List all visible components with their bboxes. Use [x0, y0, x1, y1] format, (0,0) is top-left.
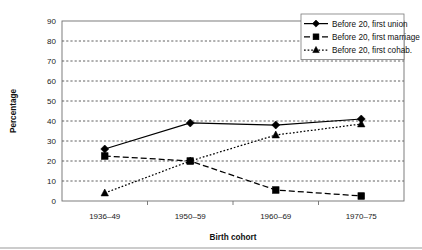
x-tick-label: 1960–69	[260, 212, 292, 221]
y-tick-label: 60	[47, 77, 56, 86]
y-tick-label: 50	[47, 97, 56, 106]
y-tick-label: 40	[47, 117, 56, 126]
x-tick-label: 1936–49	[89, 212, 121, 221]
y-tick-label: 90	[47, 17, 56, 26]
x-axis-title: Birth cohort	[210, 233, 257, 242]
legend-label[interactable]: Before 20, first marriage	[332, 33, 420, 42]
y-tick-label: 70	[47, 57, 56, 66]
marker-square	[272, 187, 279, 194]
x-tick-label: 1950–59	[175, 212, 207, 221]
y-axis-title: Percentage	[9, 88, 18, 133]
legend-label[interactable]: Before 20, first union	[332, 20, 408, 29]
marker-square	[101, 153, 108, 160]
legend-label[interactable]: Before 20, first cohab.	[332, 46, 412, 55]
marker-square	[358, 193, 365, 200]
y-tick-label: 80	[47, 37, 56, 46]
y-tick-label: 20	[47, 157, 56, 166]
chart-legend[interactable]: Before 20, first unionBefore 20, first m…	[301, 14, 420, 60]
y-tick-label: 30	[47, 137, 56, 146]
y-tick-label: 0	[52, 197, 57, 206]
y-tick-label: 10	[47, 177, 56, 186]
chart-figure: 0102030405060708090 1936–491950–591960–6…	[0, 0, 422, 250]
x-tick-label: 1970–75	[346, 212, 378, 221]
marker-square	[313, 34, 319, 40]
